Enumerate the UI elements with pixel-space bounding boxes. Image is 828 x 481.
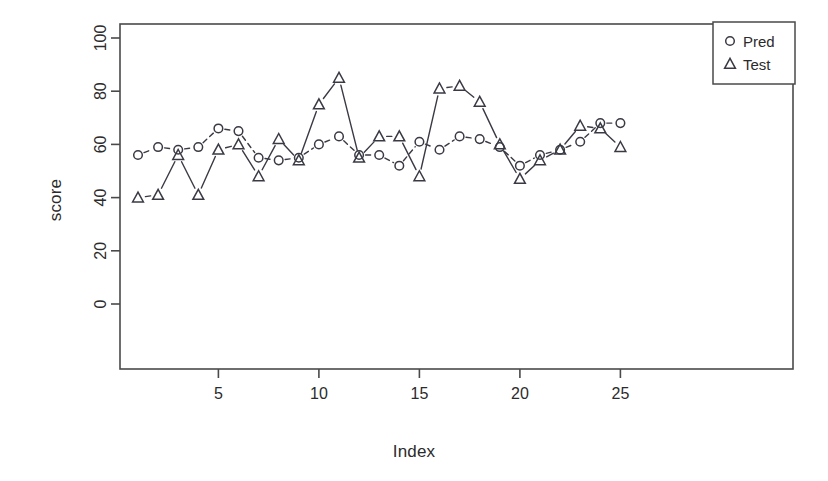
series-segment xyxy=(242,151,254,170)
data-point-marker xyxy=(435,145,444,154)
series-segment xyxy=(145,196,150,197)
series-segment xyxy=(486,141,494,144)
series-segment xyxy=(421,96,438,169)
series-segment xyxy=(447,87,452,88)
series-segment xyxy=(525,165,534,173)
data-point-marker xyxy=(153,189,164,199)
data-point-marker xyxy=(475,135,484,144)
legend-box xyxy=(713,22,795,84)
data-point-marker xyxy=(455,132,464,141)
series-segment xyxy=(262,146,275,170)
series-segment xyxy=(344,141,355,151)
series-segment xyxy=(304,148,313,154)
series-segment xyxy=(403,143,416,170)
x-axis-tick-label: 5 xyxy=(214,385,223,402)
series-segment xyxy=(364,142,374,152)
data-point-marker xyxy=(616,119,625,128)
series-segment xyxy=(526,158,535,163)
series-segment xyxy=(203,133,214,143)
x-axis-tick-label: 25 xyxy=(612,385,630,402)
data-point-marker xyxy=(474,96,485,106)
series-segment xyxy=(504,151,517,173)
y-axis-tick-label: 60 xyxy=(92,135,109,153)
x-axis-tick-label: 15 xyxy=(411,385,429,402)
x-axis-label: Index xyxy=(0,442,828,462)
legend-label-test: Test xyxy=(743,56,771,73)
series-segment xyxy=(242,136,254,152)
series-segment xyxy=(144,149,152,152)
data-point-marker xyxy=(514,173,525,183)
data-point-marker xyxy=(335,132,344,141)
data-point-marker xyxy=(213,144,224,154)
series-segment xyxy=(585,128,596,138)
series-segment xyxy=(588,127,593,128)
legend: PredTest xyxy=(713,22,795,84)
legend-label-pred: Pred xyxy=(743,33,775,50)
data-point-marker xyxy=(575,120,586,130)
series-segment xyxy=(547,153,554,157)
data-point-marker xyxy=(434,83,445,93)
series-segment xyxy=(201,157,215,189)
data-point-marker xyxy=(154,143,163,152)
series-segment xyxy=(284,145,294,155)
series-segment xyxy=(185,148,192,149)
y-axis-tick-label: 0 xyxy=(92,299,109,308)
series-segment xyxy=(285,159,292,160)
plot-box xyxy=(120,24,793,369)
series-segment xyxy=(323,84,334,99)
data-point-marker xyxy=(233,139,244,149)
series-test xyxy=(133,72,626,202)
series-segment xyxy=(465,91,473,98)
series-segment xyxy=(161,162,174,189)
series-segment xyxy=(165,148,172,149)
series-segment xyxy=(226,146,232,147)
data-point-marker xyxy=(415,137,424,146)
data-point-marker xyxy=(576,137,585,146)
data-point-marker xyxy=(274,156,283,165)
series-segment xyxy=(301,112,316,154)
x-axis-tick-label: 10 xyxy=(310,385,328,402)
data-point-marker xyxy=(315,140,324,149)
series-segment xyxy=(225,129,232,130)
y-axis-tick-label: 80 xyxy=(92,82,109,100)
data-point-marker xyxy=(375,151,384,160)
data-point-marker xyxy=(374,131,385,141)
data-point-marker xyxy=(194,143,203,152)
data-point-marker xyxy=(133,192,144,202)
series-segment xyxy=(445,140,454,146)
data-point-marker xyxy=(394,131,405,141)
data-point-marker xyxy=(454,80,465,90)
series-segment xyxy=(565,132,575,144)
series-pred xyxy=(134,119,625,170)
data-point-marker xyxy=(395,161,404,170)
x-axis-tick-label: 20 xyxy=(511,385,529,402)
data-point-marker xyxy=(313,99,324,109)
y-axis-tick-label: 20 xyxy=(92,242,109,260)
data-point-marker xyxy=(414,171,425,181)
series-segment xyxy=(483,109,497,138)
data-point-marker xyxy=(516,161,525,170)
series-segment xyxy=(466,137,473,138)
plot-area: 020406080100510152025PredTest xyxy=(0,0,828,481)
chart-container: score Index 020406080100510152025PredTes… xyxy=(0,0,828,481)
data-point-marker xyxy=(273,134,284,144)
series-segment xyxy=(182,162,195,189)
series-segment xyxy=(385,158,394,163)
series-segment xyxy=(606,134,615,142)
data-point-marker xyxy=(134,151,143,160)
data-point-marker xyxy=(615,141,626,151)
data-point-marker xyxy=(253,171,264,181)
data-point-marker xyxy=(234,127,243,136)
data-point-marker xyxy=(214,124,223,133)
data-point-marker xyxy=(254,153,263,162)
data-point-marker xyxy=(193,189,204,199)
series-segment xyxy=(325,139,333,142)
y-axis-tick-label: 40 xyxy=(92,189,109,207)
y-axis-label: score xyxy=(46,170,66,230)
series-segment xyxy=(566,144,574,147)
data-point-marker xyxy=(334,72,345,82)
y-axis-tick-label: 100 xyxy=(92,25,109,52)
